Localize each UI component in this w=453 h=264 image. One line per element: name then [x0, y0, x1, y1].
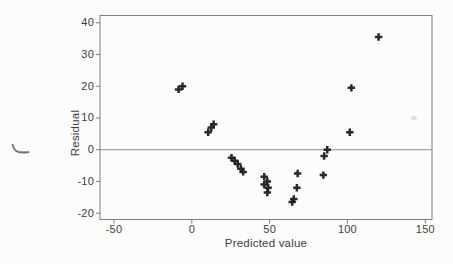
figure-canvas: Residual Predicted value 403020100-10-20… [0, 0, 453, 264]
scan-artifact-smudge [411, 116, 417, 120]
stray-pen-mark [0, 0, 453, 264]
